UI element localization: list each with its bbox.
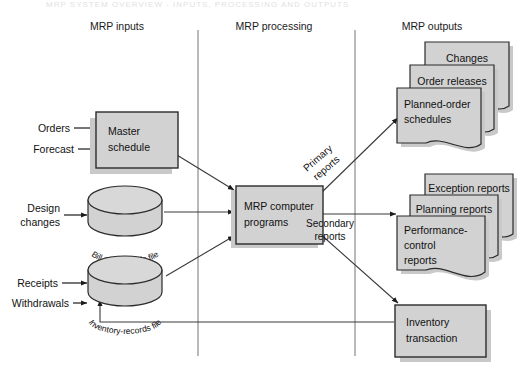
bom-cylinder-top [88,186,162,214]
mrp-programs-label-line2: programs [244,216,288,228]
planning-reports-doc-label: Planning reports [416,203,492,215]
inventory-cylinder-top [88,256,162,284]
input-label-receipts: Receipts [17,277,58,289]
planned-order-doc-label-line1: Planned-order [404,98,471,110]
input-label-withdrawals: Withdrawals [12,297,69,309]
exception-reports-doc-label: Exception reports [428,182,510,194]
top-title-strip: MRP SYSTEM OVERVIEW - INPUTS, PROCESSING… [46,0,349,9]
inventory-transaction-box [395,305,486,357]
column-header-inputs: MRP inputs [90,20,144,32]
input-label-design-changes-line1: Design [27,202,60,214]
input-label-orders: Orders [38,122,70,134]
order-releases-doc-label: Order releases [417,75,486,87]
mrp-programs-box [236,186,323,244]
master-schedule-label-line1: Master [108,125,141,137]
column-header-processing: MRP processing [236,20,313,32]
planned-order-doc-label-line2: schedules [404,113,451,125]
mrp-programs-label-line1: MRP computer [244,200,314,212]
master-schedule-box [96,112,178,168]
inventory-transaction-label-line2: transaction [406,332,458,344]
performance-reports-doc-label-line2: control [404,239,436,251]
input-label-forecast: Forecast [33,143,74,155]
inventory-transaction-label-line1: Inventory [406,316,450,328]
node-inventory-transaction: Inventory transaction [395,305,491,362]
master-schedule-label-line2: schedule [108,141,150,153]
input-label-design-changes-line2: changes [20,216,60,228]
performance-reports-doc-label-line3: reports [404,254,437,266]
column-header-outputs: MRP outputs [402,20,463,32]
performance-reports-doc-label-line1: Performance- [404,224,468,236]
secondary-reports-line1: Secondary [306,218,354,229]
changes-doc-label: Changes [446,52,488,64]
node-mrp-computer-programs: MRP computer programs [231,186,323,248]
mrp-diagram: MRP SYSTEM OVERVIEW - INPUTS, PROCESSING… [0,0,522,375]
secondary-reports-line2: reports [314,231,345,242]
node-master-schedule: Master schedule [90,112,178,174]
